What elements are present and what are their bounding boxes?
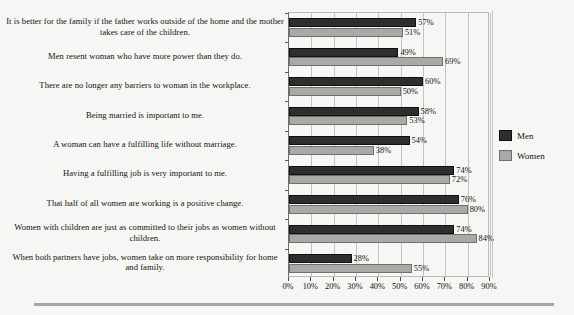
category-label: A woman can have a fulfilling life witho…	[6, 139, 284, 150]
bar-group: 60%50%	[289, 72, 488, 101]
bar-men	[289, 254, 352, 263]
legend-label: Women	[517, 151, 545, 161]
category-label: There are no longer any barriers to woma…	[6, 80, 284, 91]
x-axis-tick	[467, 277, 468, 281]
bar-women	[289, 146, 374, 155]
category-label: When both partners have jobs, women take…	[6, 252, 284, 273]
y-axis-tick	[285, 101, 289, 102]
bar-women	[289, 87, 401, 96]
x-axis-tick-label: 20%	[325, 282, 340, 291]
bottom-rule	[34, 303, 554, 306]
category-label: Men resent woman who have more power tha…	[6, 51, 284, 62]
bar-value-label: 80%	[468, 205, 485, 214]
y-axis-tick	[285, 131, 289, 132]
y-axis-tick	[285, 219, 289, 220]
bar-men	[289, 107, 419, 116]
x-axis-tick-label: 70%	[437, 282, 452, 291]
category-label-column: It is better for the family if the fathe…	[6, 12, 284, 277]
x-axis-tick-label: 60%	[414, 282, 429, 291]
x-axis-tick	[377, 277, 378, 281]
bar-women	[289, 28, 403, 37]
bar-group: 74%84%	[289, 219, 488, 248]
x-axis-tick-label: 90%	[481, 282, 496, 291]
bar-men	[289, 18, 416, 27]
bar-value-label: 49%	[398, 48, 415, 57]
chart-legend: MenWomen	[499, 130, 569, 170]
bar-women	[289, 57, 443, 66]
bar-value-label: 50%	[401, 87, 418, 96]
bar-women	[289, 175, 450, 184]
legend-item-women: Women	[499, 150, 569, 161]
bar-value-label: 57%	[416, 18, 433, 27]
bar-group: 49%69%	[289, 42, 488, 71]
x-axis-tick-label: 80%	[459, 282, 474, 291]
y-axis-tick	[285, 190, 289, 191]
bar-value-label: 74%	[454, 166, 471, 175]
bar-value-label: 76%	[459, 195, 476, 204]
x-axis-tick-label: 0%	[282, 282, 293, 291]
bar-value-label: 74%	[454, 225, 471, 234]
x-axis-tick	[444, 277, 445, 281]
bar-value-label: 69%	[443, 57, 460, 66]
bar-value-label: 53%	[407, 116, 424, 125]
bar-value-label: 58%	[419, 107, 436, 116]
bar-group: 54%38%	[289, 131, 488, 160]
bar-group: 74%72%	[289, 160, 488, 189]
legend-item-men: Men	[499, 130, 569, 141]
x-axis-tick-label: 30%	[347, 282, 362, 291]
bar-value-label: 60%	[423, 77, 440, 86]
x-axis-tick	[310, 277, 311, 281]
bar-men	[289, 48, 398, 57]
x-axis-tick-label: 10%	[303, 282, 318, 291]
legend-divider	[492, 10, 493, 278]
bar-women	[289, 116, 407, 125]
bar-value-label: 54%	[410, 136, 427, 145]
y-axis-tick	[285, 42, 289, 43]
bar-group: 28%55%	[289, 249, 488, 278]
bar-value-label: 28%	[352, 254, 369, 263]
x-axis: 0%10%20%30%40%50%60%70%80%90%	[288, 277, 489, 297]
bar-value-label: 38%	[374, 146, 391, 155]
bar-women	[289, 234, 477, 243]
category-label: That half of all women are working is a …	[6, 198, 284, 209]
y-axis-tick	[285, 72, 289, 73]
bar-value-label: 51%	[403, 28, 420, 37]
bar-chart-figure: It is better for the family if the fathe…	[0, 0, 574, 315]
y-axis-tick	[285, 13, 289, 14]
legend-label: Men	[517, 131, 534, 141]
bar-women	[289, 264, 412, 273]
bar-group: 58%53%	[289, 101, 488, 130]
bar-group: 76%80%	[289, 190, 488, 219]
x-axis-tick	[355, 277, 356, 281]
bar-group: 57%51%	[289, 13, 488, 42]
category-label: It is better for the family if the fathe…	[6, 16, 284, 37]
x-axis-tick-label: 40%	[370, 282, 385, 291]
bar-men	[289, 166, 454, 175]
bar-men	[289, 77, 423, 86]
y-axis-tick	[285, 249, 289, 250]
bar-value-label: 55%	[412, 264, 429, 273]
bar-value-label: 72%	[450, 175, 467, 184]
x-axis-tick	[422, 277, 423, 281]
bar-men	[289, 136, 410, 145]
plot-area: 57%51%49%69%60%50%58%53%54%38%74%72%76%8…	[288, 12, 489, 277]
category-label: Having a fulfilling job is very importan…	[6, 168, 284, 179]
bar-men	[289, 195, 459, 204]
category-label: Women with children are just as committe…	[6, 222, 284, 243]
legend-swatch-men	[499, 130, 512, 141]
legend-swatch-women	[499, 150, 512, 161]
category-label: Being married is important to me.	[6, 110, 284, 121]
x-axis-tick	[400, 277, 401, 281]
x-axis-tick	[489, 277, 490, 281]
bar-men	[289, 225, 454, 234]
x-axis-tick-label: 50%	[392, 282, 407, 291]
y-axis-tick	[285, 160, 289, 161]
bar-women	[289, 205, 468, 214]
x-axis-tick	[333, 277, 334, 281]
x-axis-tick	[288, 277, 289, 281]
